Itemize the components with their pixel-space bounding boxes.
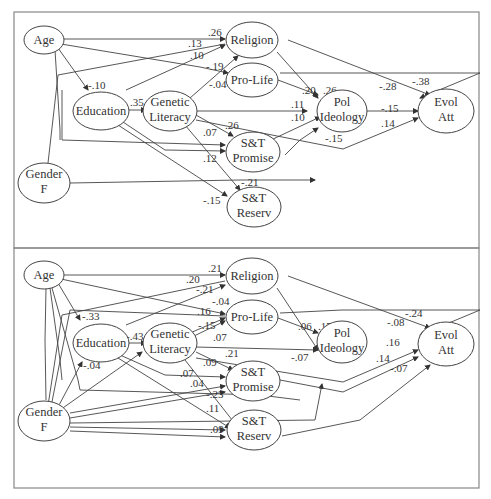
svg-text:Religion: Religion <box>230 33 274 47</box>
svg-text:.14: .14 <box>376 352 390 364</box>
svg-text:Religion: Religion <box>230 269 274 283</box>
svg-text:.06: .06 <box>298 320 312 332</box>
svg-text:Reserv: Reserv <box>237 206 272 220</box>
svg-text:Literacy: Literacy <box>149 342 191 356</box>
svg-text:-.15: -.15 <box>203 194 221 206</box>
svg-text:Genetic: Genetic <box>151 327 190 341</box>
svg-text:.10: .10 <box>291 111 305 123</box>
svg-text:.21: .21 <box>225 347 239 359</box>
svg-text:-.08: -.08 <box>387 316 405 328</box>
top-node-gender: GenderF <box>18 163 70 203</box>
svg-text:-.07: -.07 <box>390 362 408 374</box>
svg-text:Ideology: Ideology <box>320 341 365 355</box>
svg-text:Promise: Promise <box>233 151 274 165</box>
svg-text:S&T: S&T <box>241 365 266 379</box>
svg-text:.13: .13 <box>188 37 202 49</box>
svg-text:F: F <box>41 182 48 196</box>
top-node-pol-ideology: PolIdeology <box>317 90 367 132</box>
svg-text:-.04: -.04 <box>212 295 230 307</box>
svg-text:F: F <box>41 420 48 434</box>
svg-text:.26: .26 <box>225 119 239 131</box>
svg-text:Genetic: Genetic <box>151 95 190 109</box>
svg-text:S&T: S&T <box>242 191 267 205</box>
svg-text:Age: Age <box>34 268 55 282</box>
bottom-node-education: Education <box>73 324 129 362</box>
svg-text:Evol: Evol <box>434 328 458 342</box>
svg-text:-.10: -.10 <box>88 79 106 91</box>
svg-text:-.19: -.19 <box>206 60 224 72</box>
svg-text:.35: .35 <box>130 96 144 108</box>
top-node-religion: Religion <box>226 22 278 58</box>
svg-text:Ideology: Ideology <box>320 110 365 124</box>
bottom-node-st-reserv: S&TReserv <box>227 410 281 450</box>
svg-text:-.15: -.15 <box>198 319 216 331</box>
svg-text:.07: .07 <box>203 126 217 138</box>
svg-text:Pol: Pol <box>334 326 351 340</box>
top-node-education: Education <box>73 92 129 130</box>
svg-text:Promise: Promise <box>233 380 274 394</box>
svg-text:.14: .14 <box>381 117 395 129</box>
svg-text:.11: .11 <box>206 402 219 414</box>
svg-text:.09: .09 <box>203 356 217 368</box>
bottom-node-genetic-literacy: GeneticLiteracy <box>143 323 197 363</box>
svg-text:Att: Att <box>438 343 455 357</box>
svg-text:.10: .10 <box>190 49 204 61</box>
svg-text:-.21: -.21 <box>196 283 213 295</box>
svg-text:-.04: -.04 <box>209 78 227 90</box>
svg-text:S&T: S&T <box>241 136 266 150</box>
svg-text:Literacy: Literacy <box>149 110 191 124</box>
svg-text:Pol: Pol <box>334 95 351 109</box>
svg-text:Evol: Evol <box>434 95 458 109</box>
top-node-pro-life: Pro-Life <box>226 63 278 97</box>
svg-text:-.15: -.15 <box>325 132 343 144</box>
svg-text:.16: .16 <box>386 336 400 348</box>
svg-text:-.33: -.33 <box>82 310 100 322</box>
bottom-node-pol-ideology: PolIdeology <box>317 321 367 363</box>
svg-text:.07: .07 <box>213 331 227 343</box>
svg-text:Age: Age <box>34 33 55 47</box>
bottom-node-evol-att: EvolAtt <box>418 322 474 366</box>
top-node-evol-att: EvolAtt <box>418 89 474 133</box>
top-node-st-promise: S&TPromise <box>226 132 280 172</box>
svg-text:.21: .21 <box>208 262 222 274</box>
svg-text:.11: .11 <box>291 98 304 110</box>
svg-text:.16: .16 <box>197 305 211 317</box>
svg-text:-.24: -.24 <box>405 307 423 319</box>
svg-text:-.38: -.38 <box>412 75 430 87</box>
svg-text:Reserv: Reserv <box>237 429 272 443</box>
svg-text:.20: .20 <box>302 84 316 96</box>
svg-text:-.15: -.15 <box>381 102 399 114</box>
svg-text:S&T: S&T <box>242 414 267 428</box>
bottom-node-gender: GenderF <box>18 401 70 441</box>
bottom-node-pro-life: Pro-Life <box>226 300 278 334</box>
svg-text:.26: .26 <box>208 26 222 38</box>
svg-text:Gender: Gender <box>26 405 64 419</box>
bottom-node-religion: Religion <box>226 258 278 294</box>
svg-text:.09: .09 <box>210 423 224 435</box>
bottom-node-age: Age <box>24 261 64 289</box>
top-node-st-reserv: S&TReserv <box>227 187 281 227</box>
svg-text:Education: Education <box>76 336 127 350</box>
svg-text:-.21: -.21 <box>241 176 258 188</box>
svg-text:Gender: Gender <box>26 167 64 181</box>
top-node-age: Age <box>24 26 64 54</box>
bottom-node-st-promise: S&TPromise <box>226 361 280 401</box>
top-node-genetic-literacy: GeneticLiteracy <box>143 91 197 131</box>
svg-text:Pro-Life: Pro-Life <box>231 73 274 87</box>
path-diagram: .26 .13 .10 -.19 -.04 -.10 .35 .20 .26 .… <box>0 0 491 499</box>
svg-text:-.23: -.23 <box>206 388 224 400</box>
svg-text:.04: .04 <box>190 377 204 389</box>
svg-text:Pro-Life: Pro-Life <box>231 310 274 324</box>
svg-text:-.28: -.28 <box>379 80 397 92</box>
svg-text:Att: Att <box>438 110 455 124</box>
svg-text:-.07: -.07 <box>291 351 309 363</box>
svg-text:Education: Education <box>76 104 127 118</box>
svg-text:.12: .12 <box>203 152 217 164</box>
